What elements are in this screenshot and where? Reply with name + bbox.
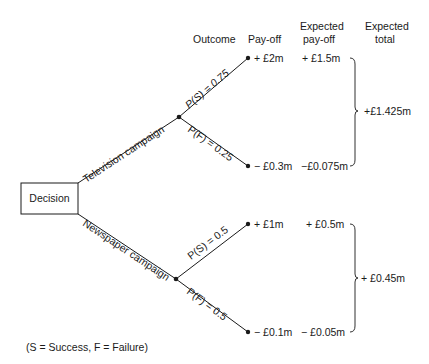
end-node	[246, 164, 250, 168]
payoff-tv-failure: − £0.3m	[254, 160, 292, 172]
end-node	[246, 56, 250, 60]
decision-node-label: Decision	[29, 192, 69, 204]
expected-payoff-np-success: + £0.5m	[306, 218, 344, 230]
payoff-tv-success: + £2m	[254, 52, 284, 64]
header-expected-payoff-1: Expected	[300, 20, 344, 32]
expected-payoff-tv-failure: −£0.075m	[301, 160, 348, 172]
payoff-np-success: + £1m	[254, 218, 284, 230]
header-expected-payoff-2: pay-off	[303, 33, 335, 45]
header-payoff: Pay-off	[248, 33, 281, 45]
header-expected-total-1: Expected	[365, 20, 409, 32]
end-node	[246, 330, 250, 334]
prob-label-np-failure: P(F) = 0.5	[185, 285, 230, 323]
branch-newspaper-label: Newspaper campaign	[81, 217, 172, 283]
legend-note: (S = Success, F = Failure)	[26, 341, 148, 353]
header-outcome: Outcome	[193, 33, 236, 45]
branch-television-label: Television campaign	[81, 123, 167, 185]
brace-television	[350, 58, 358, 166]
payoff-np-failure: − £0.1m	[254, 326, 292, 338]
expected-payoff-tv-success: + £1.5m	[302, 52, 340, 64]
brace-newspaper	[350, 224, 358, 332]
decision-tree-diagram: Outcome Pay-off Expected pay-off Expecte…	[0, 0, 429, 364]
expected-total-television: +£1.425m	[364, 105, 411, 117]
expected-payoff-np-failure: − £0.05m	[301, 326, 345, 338]
prob-label-tv-failure: P(F) = 0.25	[186, 123, 236, 163]
expected-total-newspaper: + £0.45m	[361, 272, 405, 284]
end-node	[246, 222, 250, 226]
header-expected-total-2: total	[375, 33, 395, 45]
prob-label-tv-success: P(S) = 0.75	[183, 67, 232, 111]
